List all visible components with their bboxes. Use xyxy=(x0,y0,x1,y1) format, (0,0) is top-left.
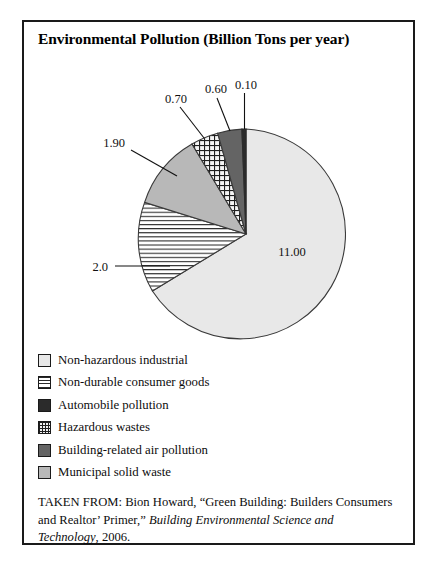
legend-item-non-durable-consumer-goods: Non-durable consumer goods xyxy=(38,372,398,395)
leader-line-0-70 xyxy=(180,107,204,138)
legend-item-building-related-air-pollution: Building-related air pollution xyxy=(38,439,398,462)
pie-label-0-70: 0.70 xyxy=(165,92,187,106)
source-citation: TAKEN FROM: Bion Howard, “Green Building… xyxy=(38,494,396,547)
page-title: Environmental Pollution (Billion Tons pe… xyxy=(38,30,398,48)
source-line-1: TAKEN FROM: Bion Howard, “Green Building… xyxy=(38,495,392,509)
pie-label-2-0: 2.0 xyxy=(92,260,108,274)
legend-item-non-hazardous-industrial: Non-hazardous industrial xyxy=(38,349,398,372)
legend-label: Municipal solid waste xyxy=(58,466,171,479)
legend-swatch-mid-gray-icon xyxy=(38,466,51,479)
pie-label-0-10: 0.10 xyxy=(235,78,257,92)
chart-legend: Non-hazardous industrial Non-durable con… xyxy=(38,349,398,484)
legend-label: Non-durable consumer goods xyxy=(58,376,209,389)
pie-label-1-90: 1.90 xyxy=(103,136,125,150)
legend-label: Non-hazardous industrial xyxy=(58,354,188,367)
legend-item-hazardous-wastes: Hazardous wastes xyxy=(38,417,398,440)
legend-swatch-light-gray-icon xyxy=(38,354,51,367)
legend-label: Building-related air pollution xyxy=(58,444,208,457)
legend-swatch-horizontal-lines-icon xyxy=(38,376,51,389)
leader-line-0-60 xyxy=(217,98,230,131)
pie-chart-svg: 11.00 2.0 1.90 0.70 0.60 0.10 xyxy=(24,60,413,350)
legend-swatch-dark-gray-icon xyxy=(38,444,51,457)
figure-frame: Environmental Pollution (Billion Tons pe… xyxy=(22,20,415,545)
legend-label: Automobile pollution xyxy=(58,399,169,412)
source-line-2-suffix: , xyxy=(96,530,99,544)
pie-label-11-00: 11.00 xyxy=(278,245,306,259)
legend-label: Hazardous wastes xyxy=(58,421,150,434)
pie-label-0-60: 0.60 xyxy=(205,82,227,96)
legend-swatch-crosshatch-icon xyxy=(38,421,51,434)
source-line-2-prefix: and Realtor’ Primer,” xyxy=(38,513,149,527)
pie-chart: 11.00 2.0 1.90 0.70 0.60 0.10 xyxy=(24,60,413,350)
legend-item-automobile-pollution: Automobile pollution xyxy=(38,394,398,417)
legend-item-municipal-solid-waste: Municipal solid waste xyxy=(38,462,398,485)
legend-swatch-black-icon xyxy=(38,399,51,412)
source-year: 2006. xyxy=(102,530,130,544)
